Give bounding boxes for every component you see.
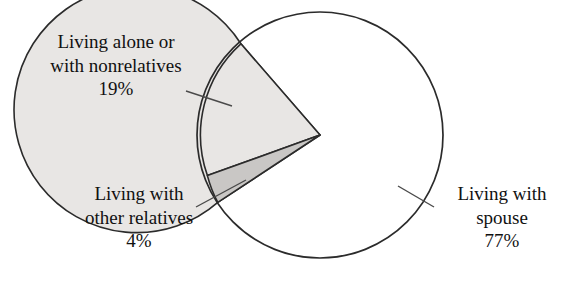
slice-value-living-with-spouse: 77% bbox=[432, 229, 572, 253]
slice-label-line-1: Living with bbox=[432, 182, 572, 206]
slice-label-line-2: other relatives bbox=[48, 206, 230, 230]
slice-label-living-alone: Living alone or with nonrelatives 19% bbox=[18, 30, 214, 101]
slice-label-line-1: Living with bbox=[48, 182, 230, 206]
pie-chart-figure: Living alone or with nonrelatives 19% Li… bbox=[0, 0, 575, 292]
slice-label-line-1: Living alone or bbox=[18, 30, 214, 54]
slice-label-line-2: with nonrelatives bbox=[18, 54, 214, 78]
slice-value-other-relatives: 4% bbox=[48, 229, 230, 253]
slice-value-living-alone: 19% bbox=[18, 77, 214, 101]
slice-label-other-relatives: Living with other relatives 4% bbox=[48, 182, 230, 253]
leader-line-living-with-spouse bbox=[398, 186, 434, 207]
slice-label-line-2: spouse bbox=[432, 206, 572, 230]
slice-label-living-with-spouse: Living with spouse 77% bbox=[432, 182, 572, 253]
